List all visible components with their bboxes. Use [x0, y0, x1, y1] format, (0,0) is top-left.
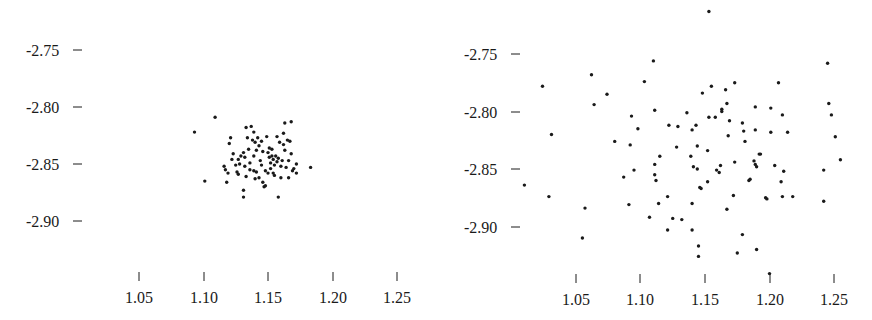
data-point — [765, 197, 768, 200]
data-point — [260, 140, 263, 143]
data-point — [592, 103, 595, 106]
data-point — [748, 178, 751, 181]
x-tick-label: 1.10 — [626, 291, 654, 308]
data-point — [652, 59, 655, 62]
data-point — [690, 128, 693, 131]
data-point — [252, 154, 255, 157]
data-point — [768, 272, 771, 275]
data-point — [248, 161, 251, 164]
data-point — [290, 152, 293, 155]
data-point — [284, 166, 287, 169]
data-point — [786, 131, 789, 134]
x-tick-label: 1.10 — [190, 289, 218, 306]
data-point — [282, 132, 285, 135]
x-tick-label: 1.20 — [319, 289, 347, 306]
data-point — [225, 181, 228, 184]
data-point — [246, 136, 249, 139]
y-axis-left: -2.75 -2.80 -2.85 -2.90 — [26, 42, 82, 230]
data-point — [270, 154, 273, 157]
data-point — [752, 159, 755, 162]
data-point — [648, 216, 651, 219]
data-point — [260, 163, 263, 166]
data-point — [229, 136, 232, 139]
data-point — [277, 157, 280, 160]
data-point — [707, 10, 710, 13]
data-point — [699, 187, 702, 190]
data-point — [288, 140, 291, 143]
data-point — [769, 106, 772, 109]
data-point — [261, 150, 264, 153]
data-point — [782, 170, 785, 173]
y-tick-label: -2.85 — [464, 161, 497, 178]
data-point — [715, 168, 718, 171]
data-point — [755, 248, 758, 251]
data-point — [541, 85, 544, 88]
data-point — [779, 180, 782, 183]
data-point — [248, 168, 251, 171]
data-point — [632, 168, 635, 171]
data-point — [728, 119, 731, 122]
data-point — [653, 109, 656, 112]
data-point — [692, 165, 695, 168]
data-point — [676, 125, 679, 128]
data-point — [701, 91, 704, 94]
data-points-right — [523, 10, 842, 276]
data-point — [237, 158, 240, 161]
data-point — [581, 236, 584, 239]
data-point — [666, 195, 669, 198]
data-point — [255, 149, 258, 152]
data-point — [292, 167, 295, 170]
data-point — [720, 108, 723, 111]
x-tick-label: 1.20 — [756, 291, 784, 308]
data-point — [269, 167, 272, 170]
data-point — [224, 168, 227, 171]
data-point — [234, 163, 237, 166]
data-point — [696, 167, 699, 170]
data-point — [283, 149, 286, 152]
data-point — [266, 171, 269, 174]
data-point — [754, 128, 757, 131]
data-point — [252, 130, 255, 133]
data-point — [228, 142, 231, 145]
data-point — [707, 116, 710, 119]
data-point — [244, 126, 247, 129]
data-point — [230, 158, 233, 161]
data-point — [690, 228, 693, 231]
x-axis-right: 1.05 1.10 1.15 1.20 1.25 — [562, 274, 848, 308]
data-point — [733, 81, 736, 84]
data-point — [629, 143, 632, 146]
data-point — [226, 171, 229, 174]
data-point — [630, 114, 633, 117]
data-point — [658, 155, 661, 158]
data-point — [736, 251, 739, 254]
data-point — [282, 143, 285, 146]
data-point — [718, 171, 721, 174]
x-tick-label: 1.15 — [254, 289, 282, 306]
data-point — [253, 177, 256, 180]
data-point — [283, 121, 286, 124]
data-point — [605, 93, 608, 96]
data-point — [830, 113, 833, 116]
data-point — [242, 151, 245, 154]
y-tick-label: -2.75 — [26, 42, 59, 59]
data-point — [264, 169, 267, 172]
data-point — [667, 124, 670, 127]
data-point — [259, 159, 262, 162]
data-point — [279, 165, 282, 168]
data-point — [742, 129, 745, 132]
data-point — [264, 184, 267, 187]
x-axis-left: 1.05 1.10 1.15 1.20 1.25 — [125, 272, 411, 306]
scatter-plot-left-canvas: -2.75 -2.80 -2.85 -2.90 1.05 1.10 1.15 1… — [0, 0, 436, 320]
data-point — [213, 116, 216, 119]
data-point — [671, 217, 674, 220]
data-point — [243, 165, 246, 168]
data-point — [690, 202, 693, 205]
data-point — [583, 206, 586, 209]
data-point — [759, 152, 762, 155]
x-tick-label: 1.05 — [562, 291, 590, 308]
data-point — [719, 164, 722, 167]
data-point — [697, 255, 700, 258]
data-point — [694, 124, 697, 127]
data-point — [523, 183, 526, 186]
data-point — [657, 202, 660, 205]
